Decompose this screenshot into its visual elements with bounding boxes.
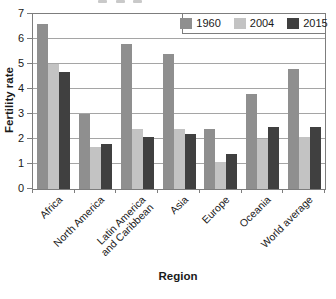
bar-2015-africa [59,72,70,190]
x-axis-title: Region [32,270,324,282]
bar-2004-latin-america [132,129,143,189]
bar-1960-asia [163,54,174,189]
legend-swatch-1960 [180,18,192,29]
grid-line-y4 [33,88,325,89]
x-category-label-africa: Africa [38,194,65,221]
bar-1960-oceania [246,94,257,189]
x-tick-1 [74,189,75,193]
x-tick-6 [282,189,283,193]
bar-2004-oceania [257,139,268,189]
grid-line-y3 [33,113,325,114]
grid-line-y5 [33,63,325,64]
legend-item-1960: 1960 [180,18,220,29]
y-tick-label-6: 6 [8,32,24,44]
bar-2015-asia [185,134,196,189]
y-tick-1 [27,163,32,164]
x-tick-4 [199,189,200,193]
legend-label: 1960 [196,18,220,29]
x-tick-3 [157,189,158,193]
plot-area: 196020042015 [32,13,326,190]
x-category-label-asia: Asia [168,194,190,216]
legend-swatch-2015 [287,18,299,29]
cropped-title-fragment [98,0,107,3]
bar-1960-europe [204,129,215,189]
x-tick-7 [324,189,325,193]
y-tick-4 [27,88,32,89]
bar-1960-africa [37,24,48,189]
legend-swatch-2004 [234,18,246,29]
legend-item-2015: 2015 [287,18,327,29]
x-category-label-europe: Europe [200,194,232,226]
bar-2015-europe [226,154,237,189]
y-tick-5 [27,63,32,64]
x-tick-2 [115,189,116,193]
bar-2015-latin-america [143,137,154,190]
y-tick-3 [27,113,32,114]
y-tick-label-0: 0 [8,182,24,194]
x-category-label-oceania: Oceania [238,194,273,229]
y-tick-6 [27,38,32,39]
x-tick-0 [32,189,33,193]
bar-2015-north-america [101,144,112,189]
cropped-title-fragment [116,0,125,3]
bar-2004-asia [174,129,185,189]
y-tick-label-2: 2 [8,132,24,144]
y-axis-title: Fertility rate [3,67,15,133]
bar-1960-latin-america [121,44,132,189]
y-tick-2 [27,138,32,139]
y-tick-label-4: 4 [8,82,24,94]
legend-item-2004: 2004 [234,18,274,29]
bar-2004-europe [215,162,226,190]
y-tick-label-5: 5 [8,57,24,69]
y-tick-label-7: 7 [8,7,24,19]
legend-label: 2004 [250,18,274,29]
y-tick-7 [27,13,32,14]
y-tick-label-1: 1 [8,157,24,169]
bar-1960-north-america [79,114,90,189]
bar-2004-world-average [299,137,310,190]
bar-1960-world-average [288,69,299,189]
bar-2004-north-america [90,147,101,190]
legend-label: 2015 [303,18,327,29]
fertility-rate-bar-chart: Fertility rate 196020042015 01234567 Afr… [0,0,336,299]
bar-2015-oceania [268,127,279,190]
grid-line-y6 [33,38,325,39]
bar-2004-africa [48,64,59,189]
y-tick-label-3: 3 [8,107,24,119]
x-tick-5 [241,189,242,193]
legend: 196020042015 [182,13,326,34]
cropped-title-fragment [133,0,142,3]
bar-2015-world-average [310,127,321,190]
